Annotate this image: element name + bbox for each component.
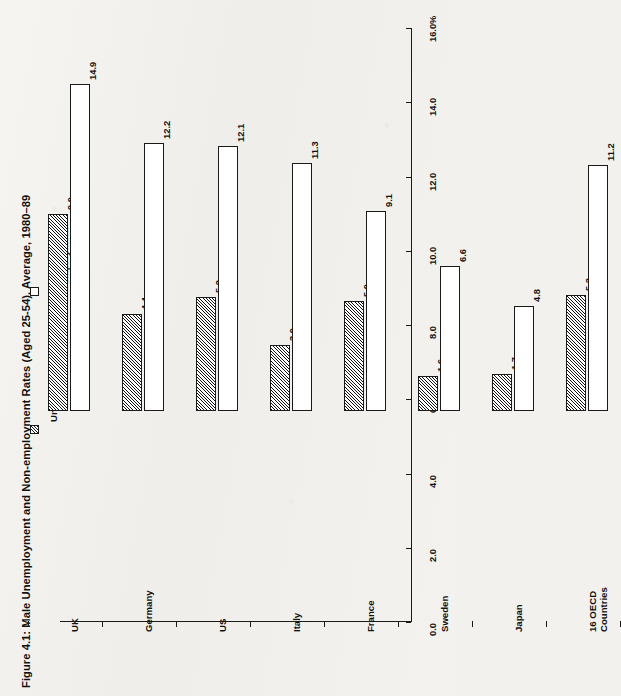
- bar-value-label: 12.2: [161, 121, 172, 139]
- category-axis-label: Sweden: [439, 596, 450, 632]
- value-axis-tick: [406, 622, 411, 623]
- value-axis-tick-label: 10.0: [428, 247, 438, 265]
- category-axis-label: Italy: [291, 613, 302, 632]
- category-axis-label: US: [217, 619, 228, 632]
- value-axis-tick-label: 12.0: [428, 172, 438, 190]
- bar-unemployment: [566, 295, 586, 411]
- category-axis-label-line: UK: [69, 618, 80, 632]
- category-axis-tick: [102, 621, 103, 627]
- bar-unemployment: [270, 345, 290, 411]
- category-axis-label-line: Sweden: [439, 596, 450, 632]
- value-axis-tick-label: 0.0: [428, 623, 438, 636]
- value-axis-tick-label: 4.0: [428, 475, 438, 488]
- category-axis-label: UK: [69, 618, 80, 632]
- bar-value-label: 6.6: [457, 249, 468, 262]
- category-axis-label: 16 OECDCountries: [587, 587, 609, 632]
- category-axis-tick: [546, 621, 547, 627]
- bar-unemployment: [418, 376, 438, 411]
- value-axis-tick: [406, 399, 411, 400]
- category-axis-label-line: 16 OECD: [587, 591, 598, 632]
- value-axis-tick: [406, 325, 411, 326]
- bar-value-label: 11.2: [605, 144, 616, 162]
- category-axis-tick: [324, 621, 325, 627]
- bar-value-label: 14.9: [87, 62, 98, 80]
- category-axis-tick: [176, 621, 177, 627]
- category-axis-tick: [250, 621, 251, 627]
- category-axis-label-line: Countries: [598, 587, 609, 632]
- category-axis-label-line: France: [365, 601, 376, 632]
- category-axis-label-line: Italy: [291, 613, 302, 632]
- value-axis-line: [411, 28, 412, 622]
- category-axis-line: [60, 621, 412, 622]
- category-axis-tick: [472, 621, 473, 627]
- bar-non-employment: [440, 266, 460, 411]
- bar-unemployment: [492, 374, 512, 411]
- value-axis-tick-label: 16.0: [428, 24, 438, 42]
- bar-non-employment: [292, 163, 312, 411]
- bar-non-employment: [514, 306, 534, 411]
- bar-non-employment: [588, 165, 608, 411]
- bar-value-label: 11.3: [309, 141, 320, 159]
- bar-value-label: 4.8: [531, 289, 542, 302]
- category-axis-label: Japan: [513, 604, 524, 632]
- bar-unemployment: [122, 314, 142, 411]
- bar-non-employment: [218, 146, 238, 411]
- category-axis-label: Germany: [143, 590, 154, 632]
- category-axis-label-line: US: [217, 619, 228, 632]
- bar-non-employment: [144, 143, 164, 411]
- category-axis-label: France: [365, 601, 376, 632]
- bar-value-label: 9.1: [383, 194, 394, 207]
- value-axis-tick-label: 8.0: [428, 326, 438, 339]
- category-axis-label-line: Germany: [143, 590, 154, 632]
- category-axis-label-line: Japan: [513, 604, 524, 632]
- bar-unemployment: [196, 297, 216, 411]
- value-axis-tick-label: 14.0: [428, 98, 438, 116]
- bar-non-employment: [366, 211, 386, 411]
- value-axis-tick: [406, 177, 411, 178]
- bar-unemployment: [48, 214, 68, 411]
- bar-non-employment: [70, 84, 90, 411]
- value-axis-tick: [406, 28, 411, 29]
- axis-unit-label: %: [428, 16, 438, 24]
- value-axis-tick-label: 2.0: [428, 549, 438, 562]
- bar-value-label: 12.1: [235, 123, 246, 141]
- value-axis-tick: [406, 474, 411, 475]
- category-axis-tick: [398, 621, 399, 627]
- bar-unemployment: [344, 301, 364, 411]
- value-axis-tick: [406, 548, 411, 549]
- category-axis-tick: [28, 621, 29, 627]
- value-axis-tick: [406, 102, 411, 103]
- value-axis-tick: [406, 251, 411, 252]
